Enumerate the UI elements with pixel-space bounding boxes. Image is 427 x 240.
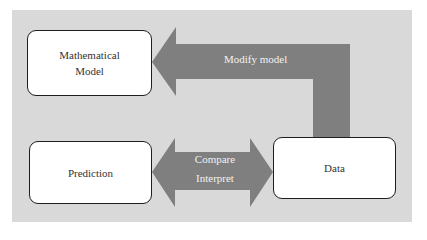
prediction-node: Prediction xyxy=(29,141,152,204)
mathematical-model-label-line2: Model xyxy=(59,63,119,79)
prediction-label: Prediction xyxy=(68,165,113,181)
interpret-label: Interpret xyxy=(193,172,237,184)
compare-label: Compare xyxy=(193,153,237,165)
mathematical-model-node: Mathematical Model xyxy=(27,30,152,96)
modify-model-label: Modify model xyxy=(224,53,287,65)
mathematical-model-label-line1: Mathematical xyxy=(59,47,119,63)
data-node: Data xyxy=(273,137,396,199)
modify-model-arrow xyxy=(152,27,350,137)
data-label: Data xyxy=(324,160,345,176)
